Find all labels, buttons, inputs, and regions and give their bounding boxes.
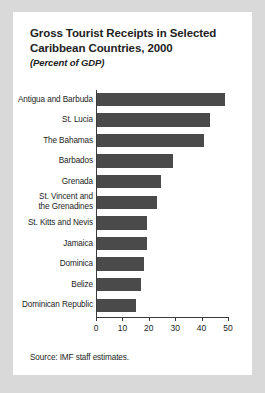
x-axis-tick-label: 30 <box>163 323 187 333</box>
bar <box>96 154 173 168</box>
chart-title-block: Gross Tourist Receipts in Selected Carib… <box>30 26 240 68</box>
bar-row: St. Kitts and Nevis <box>13 214 252 235</box>
x-axis-tick <box>228 317 229 321</box>
bar <box>96 134 204 148</box>
bar-row: Dominican Republic <box>13 296 252 317</box>
bar <box>96 196 157 210</box>
x-axis-tick <box>149 317 150 321</box>
page-title-line-1: Gross Tourist Receipts in Selected <box>30 26 240 41</box>
bar-category-label: Barbados <box>3 156 93 166</box>
bar <box>96 257 144 271</box>
bar-category-label: St. Kitts and Nevis <box>3 218 93 228</box>
bar-category-label: Jamaica <box>3 239 93 249</box>
bar-row: The Bahamas <box>13 131 252 152</box>
bar-row: Dominica <box>13 255 252 276</box>
bar-category-label: St. Lucia <box>3 115 93 125</box>
bar-category-label: Dominica <box>3 259 93 269</box>
bar-chart-plot: Antigua and BarbudaSt. LuciaThe BahamasB… <box>13 90 252 330</box>
bar-category-label: Belize <box>3 280 93 290</box>
bar-row: Belize <box>13 275 252 296</box>
bar-rows: Antigua and BarbudaSt. LuciaThe BahamasB… <box>13 90 252 317</box>
bar <box>96 278 141 292</box>
page-title-line-2: Caribbean Countries, 2000 <box>30 41 240 56</box>
bar-row: Jamaica <box>13 234 252 255</box>
x-axis-tick <box>96 317 97 321</box>
x-axis-tick-label: 50 <box>216 323 240 333</box>
x-axis-line <box>96 317 228 318</box>
chart-subtitle: (Percent of GDP) <box>30 57 240 68</box>
y-axis-line <box>96 90 97 317</box>
bar-row: Antigua and Barbuda <box>13 90 252 111</box>
chart-card: Gross Tourist Receipts in Selected Carib… <box>13 12 252 375</box>
bar-category-label: Grenada <box>3 177 93 187</box>
bar-category-label: Dominican Republic <box>3 300 93 310</box>
bar-category-label: Antigua and Barbuda <box>3 95 93 105</box>
bar-row: St. Lucia <box>13 111 252 132</box>
x-axis-tick <box>175 317 176 321</box>
bar <box>96 299 136 313</box>
x-axis-tick <box>202 317 203 321</box>
bar-row: Barbados <box>13 152 252 173</box>
bar-category-label: St. Vincent and the Grenadines <box>3 192 93 211</box>
x-axis-tick-label: 10 <box>110 323 134 333</box>
bar-category-label: The Bahamas <box>3 136 93 146</box>
x-axis-tick <box>122 317 123 321</box>
bar-row: St. Vincent and the Grenadines <box>13 193 252 214</box>
x-axis-tick-label: 40 <box>190 323 214 333</box>
x-axis-tick-label: 20 <box>137 323 161 333</box>
source-note: Source: IMF staff estimates. <box>30 353 129 362</box>
bar-row: Grenada <box>13 172 252 193</box>
bar <box>96 93 225 107</box>
bar <box>96 237 147 251</box>
bar <box>96 175 161 189</box>
bar <box>96 113 210 127</box>
x-axis-tick-label: 0 <box>84 323 108 333</box>
bar <box>96 216 147 230</box>
